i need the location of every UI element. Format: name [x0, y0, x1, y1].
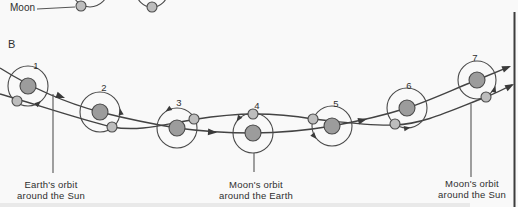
textbook-figure: Moon B 1 2 3 4 [0, 0, 518, 207]
moon-body [308, 114, 318, 124]
moon-body [390, 119, 400, 129]
moon-body [147, 2, 157, 12]
caption-line: around the Sun [438, 189, 506, 200]
earth-body [324, 118, 340, 134]
moon-body [481, 92, 491, 102]
moon-body [107, 122, 117, 132]
caption-line: Earth's orbit [25, 179, 78, 190]
earth-body [469, 72, 485, 88]
earth-body [399, 100, 415, 116]
earth-body [169, 120, 185, 136]
position-number: 1 [33, 60, 38, 71]
position-number: 3 [176, 97, 181, 108]
earth-body [245, 125, 261, 141]
scan-artifact [0, 203, 470, 207]
caption-line: around the Sun [17, 190, 85, 201]
moon-body [189, 114, 199, 124]
caption-moon-orbit-earth: Moon's orbit around the Earth [219, 179, 293, 201]
moon-body [76, 1, 86, 11]
earth-body [92, 104, 108, 120]
moon-body [12, 96, 22, 106]
position-number: 4 [254, 100, 259, 111]
caption-line: Moon's orbit [445, 178, 499, 189]
caption-line: Moon's orbit [229, 179, 283, 190]
caption-line: around the Earth [219, 190, 293, 201]
position-number: 7 [472, 52, 477, 63]
earth-body [20, 78, 36, 94]
moon-label: Moon [10, 2, 35, 13]
position-number: 6 [406, 80, 411, 91]
orbit-diagram: Moon B 1 2 3 4 [0, 0, 518, 207]
position-number: 5 [333, 98, 338, 109]
caption-earth-orbit-sun: Earth's orbit around the Sun [17, 179, 85, 201]
position-number: 2 [101, 82, 106, 93]
caption-moon-orbit-sun: Moon's orbit around the Sun [438, 178, 506, 200]
panel-b-label: B [8, 38, 15, 50]
